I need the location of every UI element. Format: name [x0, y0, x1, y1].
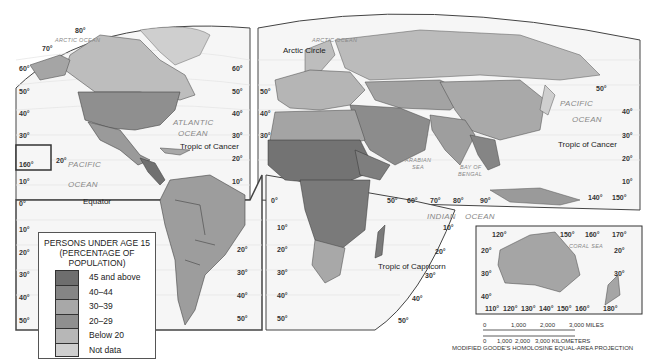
pacific-ocean-right-label-2: OCEAN	[572, 115, 602, 124]
lon-label: 70°	[430, 197, 441, 204]
lat-label: 0°	[19, 200, 26, 207]
bay-of-bengal-label-1: BAY OF	[460, 164, 481, 170]
legend-label: 40–44	[89, 287, 113, 297]
lat-label: 10°	[443, 224, 454, 231]
lat-label: 20°	[56, 157, 67, 164]
lat-label: 40°	[622, 108, 633, 115]
scale-tick-label: 0	[483, 322, 486, 328]
legend-label: 30–39	[89, 301, 113, 311]
lat-label: 60°	[232, 65, 243, 72]
lat-label: 60°	[19, 65, 30, 72]
pacific-ocean-left-label-1: PACIFIC	[68, 160, 101, 169]
indian-ocean-label-2: OCEAN	[465, 212, 495, 221]
lat-label: 40°	[19, 110, 30, 117]
lat-label: 20°	[614, 247, 625, 254]
lat-label: 30°	[237, 269, 248, 276]
lat-label: 20°	[19, 249, 30, 256]
lon-label: 130°	[521, 305, 535, 312]
legend-items: 45 and above 40–44 30–39 20–29 Below 20 …	[55, 270, 141, 357]
legend-item: Not data	[55, 343, 141, 358]
scale-tick-label: 1,000	[497, 338, 512, 344]
tropic-of-cancer-left-label: Tropic of Cancer	[180, 142, 239, 151]
legend-item: Below 20	[55, 328, 141, 343]
lat-label: 20°	[232, 155, 243, 162]
lon-label: 90°	[480, 197, 491, 204]
lat-label: 50°	[260, 88, 271, 95]
arctic-ocean-right-label: ARCTIC OCEAN	[312, 37, 357, 43]
lat-label: 30°	[232, 132, 243, 139]
lat-label: 50°	[277, 315, 288, 322]
lat-label: 40°	[277, 292, 288, 299]
lon-label: 150°	[557, 305, 571, 312]
lon-label: 160°	[585, 231, 599, 238]
lon-label: 160°	[575, 305, 589, 312]
arctic-ocean-left-label: ARCTIC OCEAN	[55, 37, 100, 43]
lat-label: 30°	[425, 272, 436, 279]
lon-label: 170°	[612, 231, 626, 238]
bay-of-bengal-label-2: BENGAL	[458, 171, 482, 177]
legend-swatch	[55, 343, 79, 358]
legend-item: 20–29	[55, 314, 141, 329]
legend-title: PERSONS UNDER AGE 15 (PERCENTAGE OF POPU…	[39, 238, 155, 268]
legend-swatch	[55, 299, 79, 314]
arctic-circle-label: Arctic Circle	[283, 46, 326, 55]
lat-label: 30°	[277, 269, 288, 276]
lat-label: 20°	[481, 247, 492, 254]
lat-label: 30°	[481, 270, 492, 277]
coral-sea-label: CORAL SEA	[569, 243, 603, 249]
lat-label: 50°	[19, 88, 30, 95]
lon-label: 180°	[603, 305, 617, 312]
legend-label: 20–29	[89, 316, 113, 326]
legend-item: 30–39	[55, 299, 141, 314]
scale-tick-label: 2,000	[515, 338, 530, 344]
legend-item: 40–44	[55, 285, 141, 300]
lat-label: 40°	[412, 295, 423, 302]
lat-label: 30°	[19, 132, 30, 139]
lon-label: 80°	[453, 197, 464, 204]
legend-label: 45 and above	[89, 272, 141, 282]
indian-ocean-label-1: INDIAN	[427, 212, 456, 221]
tropic-of-capricorn-label: Tropic of Capricorn	[378, 262, 446, 271]
lat-label: 50°	[19, 317, 30, 324]
lon-label: 160°	[19, 161, 33, 168]
lon-label: 150°	[612, 194, 626, 201]
legend: PERSONS UNDER AGE 15 (PERCENTAGE OF POPU…	[38, 232, 156, 359]
atlantic-ocean-label-2: OCEAN	[178, 129, 208, 138]
tropic-of-cancer-right-label: Tropic of Cancer	[558, 140, 617, 149]
lat-label: 50°	[237, 315, 248, 322]
lon-label: 140°	[539, 305, 553, 312]
lat-label: 80°	[75, 27, 86, 34]
lon-label: 120°	[492, 231, 506, 238]
lat-label: 10°	[19, 178, 30, 185]
pacific-ocean-right-label-1: PACIFIC	[560, 99, 593, 108]
legend-title-line: PERSONS UNDER AGE 15	[39, 238, 155, 248]
lat-label: 40°	[237, 292, 248, 299]
arabian-sea-label-1: ARABIAN	[405, 157, 431, 163]
lat-label: 40°	[232, 110, 243, 117]
lat-label: 20°	[237, 246, 248, 253]
legend-title-line: (PERCENTAGE OF	[39, 248, 155, 258]
lat-label: 70°	[42, 45, 53, 52]
lon-label: 50°	[387, 197, 398, 204]
lon-label: 110°	[485, 305, 499, 312]
lat-label: 10°	[19, 226, 30, 233]
legend-title-line: POPULATION)	[39, 258, 155, 268]
lon-label: 60°	[407, 197, 418, 204]
atlantic-ocean-label-1: ATLANTIC	[173, 118, 213, 127]
legend-swatch	[55, 270, 79, 285]
lat-label: 40°	[19, 294, 30, 301]
legend-swatch	[55, 285, 79, 300]
lon-label: 150°	[560, 231, 574, 238]
lat-label: 30°	[260, 132, 271, 139]
arabian-sea-label-2: SEA	[412, 164, 424, 170]
lat-label: 50°	[232, 88, 243, 95]
scale-tick-label: 2,000	[540, 322, 555, 328]
lat-label: 10°	[622, 178, 633, 185]
scale-tick-label: 3,000 KILOMETERS	[535, 338, 590, 344]
lat-label: 0°	[271, 197, 278, 204]
lat-label: 20°	[435, 248, 446, 255]
legend-item: 45 and above	[55, 270, 141, 285]
lat-label: 40°	[260, 110, 271, 117]
lat-label: 20°	[277, 246, 288, 253]
lon-label: 140°	[588, 194, 602, 201]
